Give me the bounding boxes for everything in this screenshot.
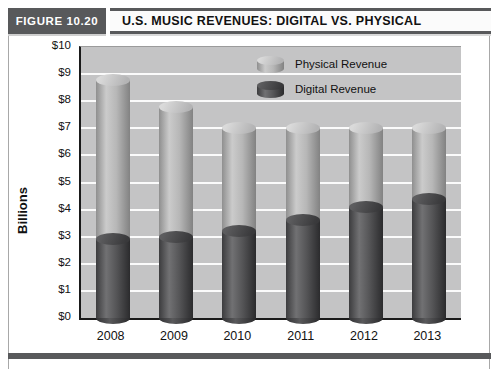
bar-2009-digital-top-cap (159, 231, 193, 243)
bar-2008-physical-segment (96, 80, 130, 240)
gridline (81, 263, 461, 265)
gridline (81, 290, 461, 292)
bar-2009 (159, 107, 193, 318)
bar-2013-physical-segment (412, 128, 446, 198)
bar-2012-digital-segment (349, 207, 383, 318)
legend-swatch-part (257, 56, 284, 65)
bar-2008-physical-top-cap (96, 74, 130, 86)
gridline (81, 127, 461, 129)
x-axis-label-2009: 2009 (142, 329, 205, 343)
figure-header: FIGURE 10.20 U.S. MUSIC REVENUES: DIGITA… (8, 8, 491, 34)
y-axis-tick-label: $3 (9, 229, 71, 241)
legend-label: Physical Revenue (295, 58, 387, 70)
y-axis-tick-label: $6 (9, 147, 71, 159)
legend-label: Digital Revenue (295, 83, 376, 95)
bar-2008 (96, 80, 130, 318)
gridline (81, 73, 461, 75)
x-axis-label-2010: 2010 (206, 329, 269, 343)
bar-2011-physical-segment (286, 128, 320, 220)
bar-2008-digital-segment (96, 239, 130, 318)
figure-title: U.S. MUSIC REVENUES: DIGITAL VS. PHYSICA… (110, 8, 491, 34)
legend-swatch-part (257, 89, 284, 98)
y-axis-tick-label: $9 (9, 66, 71, 78)
bar-2010 (222, 128, 256, 318)
bar-2009-physical-segment (159, 107, 193, 237)
bar-2012-physical-segment (349, 128, 383, 207)
bar-2011 (286, 128, 320, 318)
bar-2012 (349, 128, 383, 318)
y-axis-tick-label: $8 (9, 93, 71, 105)
bar-2013-digital-segment (412, 199, 446, 318)
y-axis-tick-label: $4 (9, 202, 71, 214)
gridline (81, 209, 461, 211)
y-axis-tick-label: $1 (9, 283, 71, 295)
x-axis-label-2013: 2013 (396, 329, 459, 343)
x-axis-labels: 200820092010201120122013 (79, 327, 459, 347)
plot-area: Physical RevenueDigital Revenue (79, 46, 461, 320)
gridline (81, 236, 461, 238)
y-axis-ticks: $0$1$2$3$4$5$6$7$8$9$10 (9, 46, 71, 317)
x-axis-label-2008: 2008 (79, 329, 142, 343)
y-axis-tick-label: $0 (9, 310, 71, 322)
gridline (81, 182, 461, 184)
digital-cylinder-icon (257, 81, 284, 98)
x-axis-label-2011: 2011 (269, 329, 332, 343)
x-axis-label-2012: 2012 (332, 329, 395, 343)
bar-2010-physical-segment (222, 128, 256, 231)
legend-item-physical: Physical Revenue (257, 55, 387, 73)
bar-2013-digital-top-cap (412, 193, 446, 205)
y-axis-tick-label: $2 (9, 256, 71, 268)
gridline (81, 154, 461, 156)
bar-2013 (412, 128, 446, 318)
bar-2012-digital-top-cap (349, 201, 383, 213)
gridline (81, 100, 461, 102)
bar-2009-physical-top-cap (159, 101, 193, 113)
figure-number-label: FIGURE 10.20 (8, 8, 106, 34)
figure-container: FIGURE 10.20 U.S. MUSIC REVENUES: DIGITA… (8, 8, 490, 369)
legend-item-digital: Digital Revenue (257, 80, 387, 98)
physical-cylinder-icon (257, 56, 284, 73)
y-axis-tick-label: $10 (9, 39, 71, 51)
legend: Physical RevenueDigital Revenue (257, 55, 387, 105)
y-axis-tick-label: $7 (9, 120, 71, 132)
legend-swatch-part (257, 81, 284, 90)
figure-bottom-rule (8, 353, 491, 359)
bar-2010-digital-segment (222, 231, 256, 318)
chart-area: Billions $0$1$2$3$4$5$6$7$8$9$10 Physica… (9, 35, 491, 353)
figure-page: { "figure": { "label": "FIGURE 10.20", "… (0, 0, 497, 369)
bar-2011-digital-segment (286, 220, 320, 318)
y-axis-tick-label: $5 (9, 175, 71, 187)
legend-swatch-part (257, 64, 284, 73)
bar-2009-digital-segment (159, 237, 193, 318)
